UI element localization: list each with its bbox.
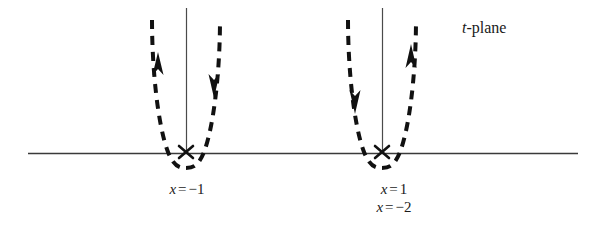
label-right-value-1: 1 xyxy=(400,181,408,197)
plane-label: t-plane xyxy=(462,19,506,37)
t-plane-figure: x=−1 x=1 x=−2 t-plane xyxy=(0,0,599,237)
plane-label-word: plane xyxy=(472,19,507,36)
label-right-value-2: −2 xyxy=(396,199,412,215)
label-right-operator-2: = xyxy=(383,199,395,215)
label-left-operator: = xyxy=(176,181,188,197)
branch-point-right-label-row-2: x=−2 xyxy=(336,198,452,216)
label-left-value: −1 xyxy=(189,181,205,197)
contour-left-branch-path xyxy=(152,20,186,168)
label-right-operator-1: = xyxy=(387,181,399,197)
contour-right-fig-right-branch-path xyxy=(382,20,416,168)
branch-point-right-label-row-1: x=1 xyxy=(336,180,452,198)
branch-point-right-label: x=1 x=−2 xyxy=(336,180,452,216)
branch-point-left-label: x=−1 xyxy=(132,180,242,198)
arrow-right-branch-down-icon xyxy=(209,74,220,98)
figure-canvas xyxy=(0,0,599,237)
